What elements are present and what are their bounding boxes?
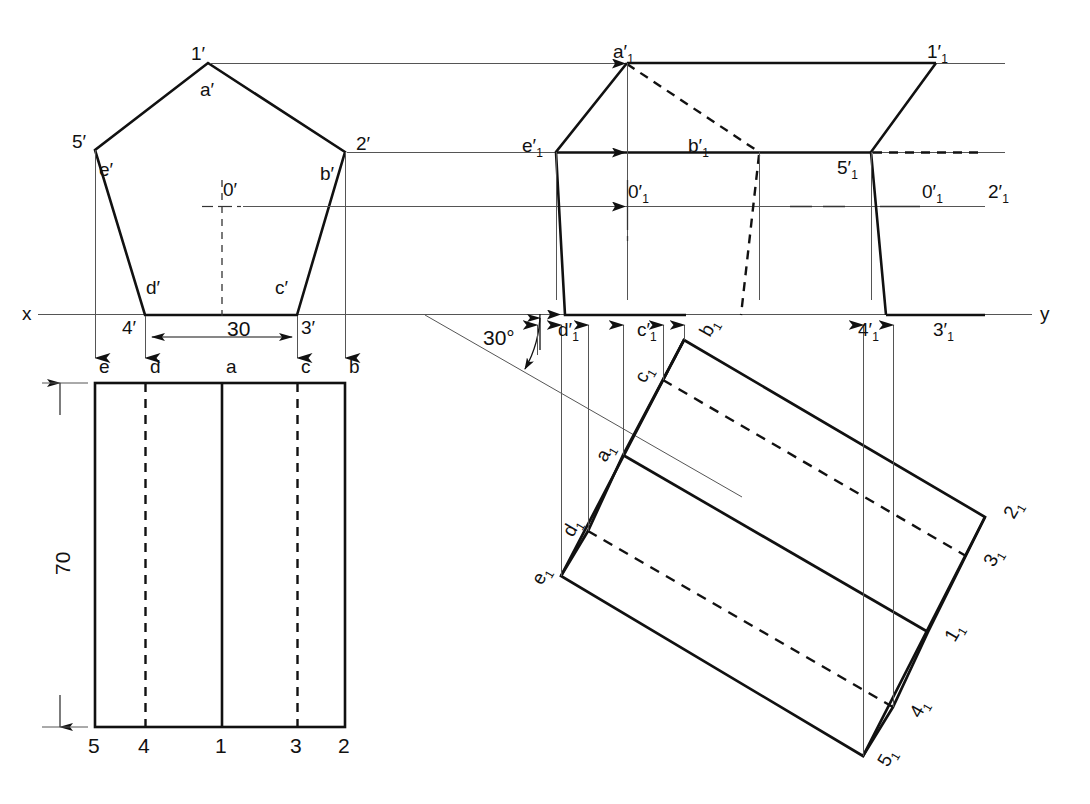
engineering-drawing-sheet: x y 1′ a′ 5′ e′ 2′ b′ 0′ d′ c′ 4′ 3′ 30 … (0, 0, 1090, 804)
top-view-label-4: 4 (138, 735, 150, 756)
aux-label-a1: a′1 (613, 42, 634, 65)
auxiliary-view-projectors (557, 63, 872, 300)
front-vertex-5-label: 5′ (72, 132, 86, 151)
front-vertex-2-label: 2′ (356, 134, 370, 153)
aux-label-b1: b′1 (688, 136, 709, 159)
front-point-d-label: d′ (146, 278, 160, 297)
aux-label-4-1: 4′1 (858, 320, 879, 343)
top-view-label-1: 1 (215, 735, 227, 756)
front-point-e-label: e′ (99, 160, 113, 179)
front-vertex-3-label: 3′ (301, 318, 315, 337)
top-view-label-b: b (349, 357, 360, 376)
top-view-label-c: c (301, 357, 311, 376)
front-point-b-label: b′ (320, 164, 334, 183)
axis-label-y: y (1040, 304, 1050, 323)
top-view-rectangle (95, 383, 345, 727)
aux-label-e1: e′1 (522, 136, 543, 159)
front-point-c-label: c′ (275, 278, 288, 297)
front-vertex-4-label: 4′ (122, 318, 136, 337)
drawing-canvas (0, 0, 1090, 804)
inclined-view-outline (561, 340, 985, 756)
top-view-label-2: 2 (338, 735, 350, 756)
aux-label-d1: d′1 (558, 320, 579, 343)
axis-label-x: x (22, 304, 32, 323)
front-center-0-label: 0′ (223, 180, 237, 199)
angle-30-label: 30° (483, 327, 515, 348)
dimension-30-label: 30 (227, 318, 250, 339)
top-view-label-e: e (99, 357, 110, 376)
front-view-pentagon (95, 63, 345, 315)
aux-label-c1: c′1 (637, 320, 657, 343)
top-view-label-3: 3 (290, 735, 302, 756)
aux-label-0-1: 0′1 (628, 182, 649, 205)
top-view-label-d: d (150, 357, 161, 376)
auxiliary-view-outline (556, 63, 985, 315)
top-view-label-5: 5 (88, 735, 100, 756)
aux-label-1-1: 1′1 (927, 42, 948, 65)
front-point-a-label: a′ (200, 80, 214, 99)
inclined-construction-line (425, 315, 742, 497)
aux-label-5-1: 5′1 (837, 158, 858, 181)
aux-label-2-1: 2′1 (988, 182, 1009, 205)
dimension-70-label: 70 (52, 552, 73, 575)
front-vertex-1-label: 1′ (191, 44, 205, 63)
top-view-label-a: a (226, 357, 237, 376)
aux-label-0-1-right: 0′1 (922, 182, 943, 205)
inclined-view-projectors (562, 325, 894, 756)
aux-label-3-1: 3′1 (933, 320, 954, 343)
